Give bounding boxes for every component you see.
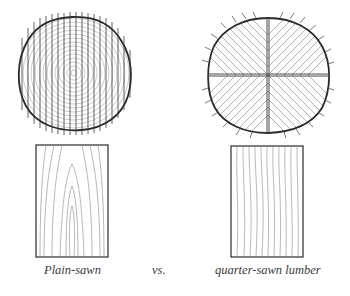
quarter-sawn-log-section: [202, 12, 334, 138]
lumber-diagram: [0, 0, 350, 296]
caption-quarter-sawn: quarter-sawn lumber: [215, 263, 321, 278]
plain-sawn-board: [36, 145, 108, 257]
quarter-sawn-board: [231, 146, 303, 257]
plain-sawn-log-section: [15, 12, 133, 135]
caption-versus: vs.: [152, 263, 166, 278]
caption-plain-sawn: Plain-sawn: [44, 263, 101, 278]
